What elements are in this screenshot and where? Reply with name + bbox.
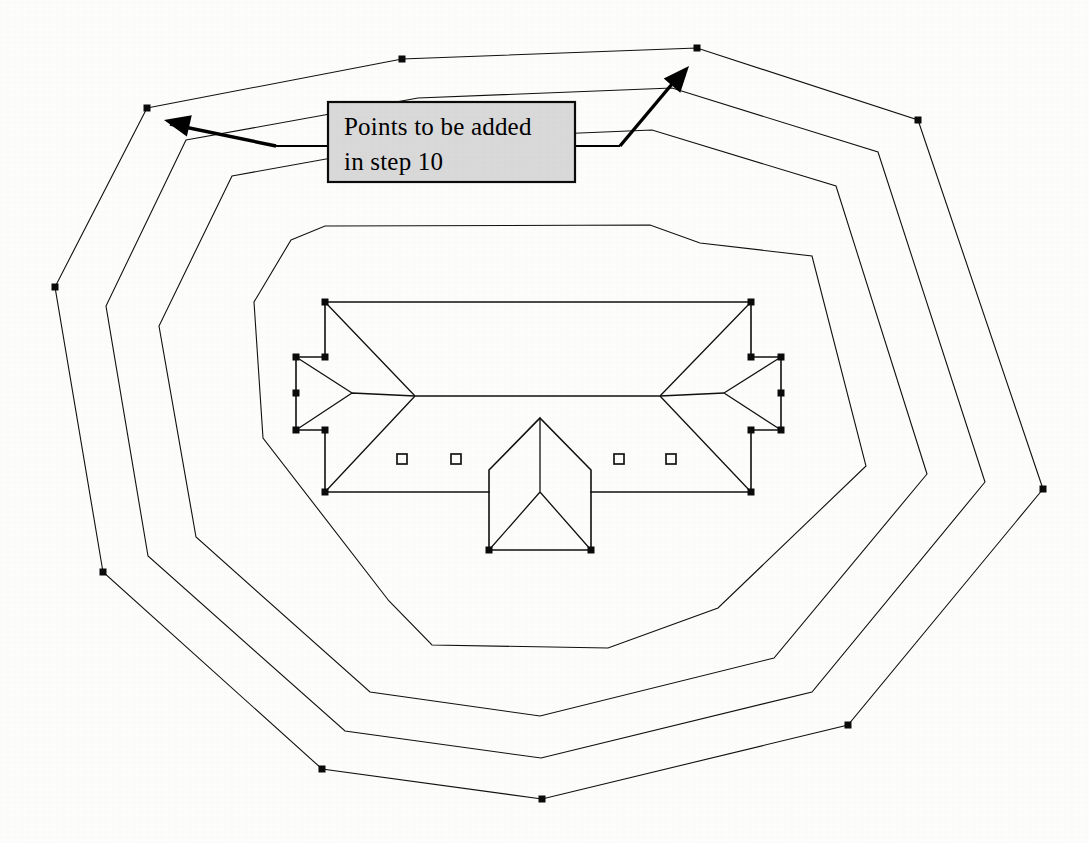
contour-vertex-marker [694, 45, 701, 52]
roof-vertex-marker [293, 354, 300, 361]
building-roof-plan [293, 299, 785, 554]
roof-vertex-marker [748, 354, 755, 361]
right-wing-hips [660, 357, 781, 430]
roof-vertex-marker [322, 354, 329, 361]
contour-vertex-marker [399, 56, 406, 63]
roof-vent-marker-4 [666, 454, 676, 464]
roof-vertex-marker [778, 390, 785, 397]
roof-vertex-marker [778, 354, 785, 361]
callout-annotation: Points to be added in step 10 [328, 102, 575, 182]
roof-vent-marker-2 [451, 454, 461, 464]
contour-vertex-marker [915, 117, 922, 124]
contour-vertex-marker [52, 284, 59, 291]
roof-vertex-marker [322, 427, 329, 434]
callout-line-1: Points to be added [344, 113, 532, 140]
main-roof-hips [325, 302, 751, 492]
roof-vertex-marker [293, 427, 300, 434]
left-wing-hips [296, 357, 415, 430]
contour-vertex-marker [1040, 486, 1047, 493]
roof-vertex-marker [322, 489, 329, 496]
roof-vertex-marker [588, 547, 595, 554]
roof-vertex-marker [778, 427, 785, 434]
roof-vent-marker-3 [614, 454, 624, 464]
roof-vertex-marker [293, 390, 300, 397]
diagram-canvas: Points to be added in step 10 [0, 0, 1089, 843]
contour-vertex-marker [144, 105, 151, 112]
contour-vertex-marker [539, 796, 546, 803]
callout-line-2: in step 10 [344, 148, 443, 175]
contour-vertex-marker [845, 722, 852, 729]
left-wing-outline [296, 357, 325, 430]
roof-vertex-marker [748, 489, 755, 496]
arrow-left-head-icon [164, 115, 192, 136]
building-vertex-markers [293, 299, 785, 554]
roof-vertex-marker [486, 547, 493, 554]
roof-vertex-marker [748, 427, 755, 434]
contour-inner [159, 130, 927, 716]
roof-vent-markers [397, 454, 676, 464]
roof-vertex-marker [322, 299, 329, 306]
right-wing-outline [751, 357, 781, 430]
roof-vent-marker-1 [397, 454, 407, 464]
contour-innermost [254, 225, 866, 648]
porch-hips [489, 418, 591, 550]
main-roof-outline [325, 302, 751, 492]
roof-vertex-marker [748, 299, 755, 306]
contour-vertex-marker [319, 766, 326, 773]
diagram-root: Points to be added in step 10 [0, 0, 1089, 843]
contour-vertex-marker [100, 569, 107, 576]
